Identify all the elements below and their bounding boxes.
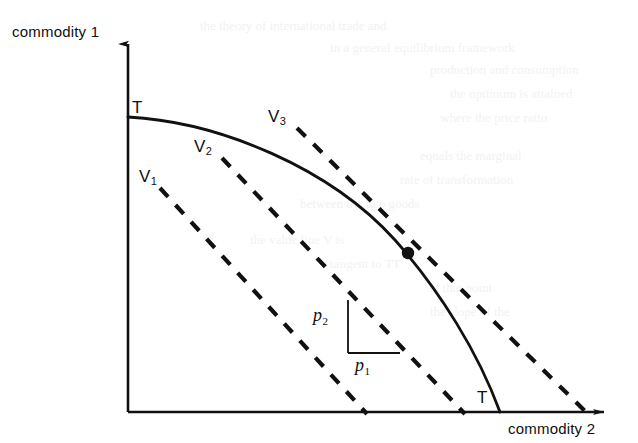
iso-value-line-v1 [160,188,367,414]
p2-subscript: 2 [323,315,329,327]
iso-value-line-v2 [222,158,465,414]
v3-subscript: 3 [280,115,286,127]
transformation-curve-figure: the theory of international trade andin … [0,0,638,443]
transformation-curve [128,117,500,412]
iso-value-label-v1: V1 [139,168,156,185]
v1-letter: V [139,167,150,186]
v2-letter: V [194,137,205,156]
x-axis-label: commodity 2 [508,421,595,436]
iso-value-label-v3: V3 [268,108,285,125]
iso-value-label-v2: V2 [194,138,211,155]
iso-value-line-v3 [297,128,588,414]
figure-canvas [0,0,638,443]
curve-label-t-bottom: T [477,389,487,406]
slope-label-p1: p1 [355,356,370,374]
v3-letter: V [268,107,279,126]
v2-subscript: 2 [206,145,212,157]
p1-letter: p [355,355,364,375]
p2-letter: p [313,305,322,325]
y-axis-label: commodity 1 [12,24,99,39]
slope-label-p2: p2 [313,306,328,324]
p1-subscript: 1 [365,365,371,377]
curve-label-t-top: T [132,99,142,116]
v1-subscript: 1 [151,175,157,187]
tangency-point-marker [402,247,414,259]
